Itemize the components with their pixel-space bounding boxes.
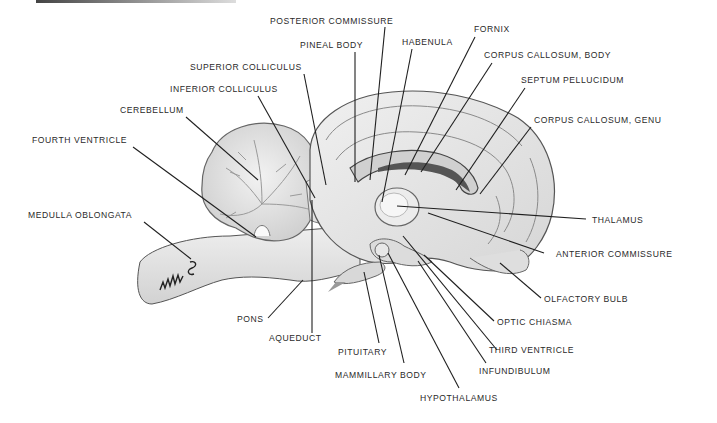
label-hypothalamus: HYPOTHALAMUS (420, 393, 498, 403)
label-corpus-callosum-body: CORPUS CALLOSUM, BODY (484, 50, 611, 60)
leader-medulla-oblongata (144, 222, 191, 259)
label-olfactory-bulb: OLFACTORY BULB (544, 294, 628, 304)
leader-posterior-commissure (370, 27, 385, 180)
label-septum-pellucidum: SEPTUM PELLUCIDUM (521, 75, 624, 85)
label-infundibulum: INFUNDIBULUM (479, 366, 551, 376)
label-thalamus: THALAMUS (592, 215, 643, 225)
leader-pituitary (364, 272, 379, 343)
leader-olfactory-bulb (500, 263, 541, 298)
label-pons: PONS (237, 314, 264, 324)
leader-cerebellum (186, 117, 258, 180)
label-posterior-commissure: POSTERIOR COMMISSURE (270, 16, 393, 26)
label-corpus-callosum-genu: CORPUS CALLOSUM, GENU (534, 115, 662, 125)
label-mammillary-body: MAMMILLARY BODY (335, 370, 427, 380)
leader-inferior-colliculus (258, 96, 315, 198)
leader-corpus-callosum-genu (480, 127, 531, 194)
label-inferior-colliculus: INFERIOR COLLICULUS (170, 84, 278, 94)
brain-diagram: POSTERIOR COMMISSURE FORNIX PINEAL BODY … (0, 0, 717, 423)
leader-corpus-callosum-body (421, 63, 492, 172)
leader-third-ventricle (403, 236, 497, 350)
leader-infundibulum (418, 261, 486, 363)
label-anterior-commissure: ANTERIOR COMMISSURE (556, 249, 672, 259)
leader-anterior-commissure (428, 213, 544, 253)
label-fornix: FORNIX (474, 24, 510, 34)
label-habenula: HABENULA (402, 37, 453, 47)
label-fourth-ventricle: FOURTH VENTRICLE (32, 135, 127, 145)
label-third-ventricle: THIRD VENTRICLE (489, 345, 574, 355)
leader-thalamus (397, 206, 586, 219)
leader-optic-chiasma (424, 255, 494, 321)
label-optic-chiasma: OPTIC CHIASMA (497, 317, 572, 327)
leader-superior-colliculus (304, 74, 326, 185)
label-pituitary: PITUITARY (338, 347, 387, 357)
label-medulla-oblongata: MEDULLA OBLONGATA (28, 210, 132, 220)
label-cerebellum: CEREBELLUM (120, 105, 184, 115)
label-pineal-body: PINEAL BODY (300, 40, 363, 50)
leader-hypothalamus (388, 253, 459, 388)
label-superior-colliculus: SUPERIOR COLLICULUS (190, 62, 302, 72)
leader-habenula (382, 49, 412, 202)
leader-fourth-ventricle (133, 147, 256, 237)
leader-pons (268, 280, 303, 318)
label-aqueduct: AQUEDUCT (269, 333, 322, 343)
